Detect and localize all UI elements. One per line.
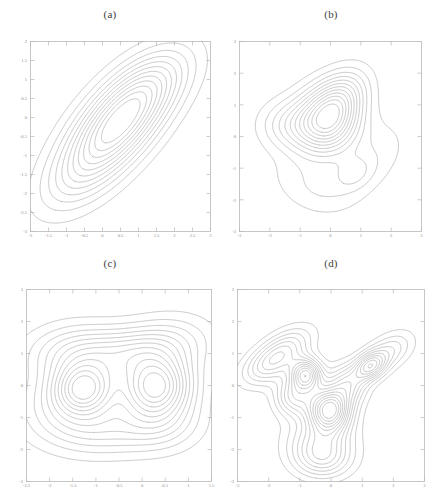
ticklabel: 0.5 bbox=[118, 233, 124, 238]
panel-d-y-labels: 3 2 1 0 -1 -2 -3 bbox=[230, 287, 235, 484]
ticklabel: -1 bbox=[19, 415, 24, 420]
contour-line bbox=[273, 72, 367, 184]
ticklabel: 0 bbox=[101, 233, 104, 238]
contour-figure: (a) bbox=[0, 0, 441, 497]
ticklabel: 2 bbox=[234, 71, 237, 76]
contour-line bbox=[101, 99, 140, 143]
ticklabel: 0 bbox=[141, 483, 144, 488]
ticklabel: 2 bbox=[232, 319, 235, 324]
panel-a-plot: -2 -1.5 -1 -0.5 0 0.5 1 1.5 2 2.5 3 2 1.… bbox=[0, 26, 220, 248]
ticklabel: -1.5 bbox=[20, 172, 28, 177]
ticklabel: -1 bbox=[298, 233, 303, 238]
panel-c-title: (c) bbox=[0, 257, 220, 269]
contour-line bbox=[262, 346, 385, 464]
panel-a-x-labels: -2 -1.5 -1 -0.5 0 0.5 1 1.5 2 2.5 3 bbox=[29, 233, 213, 238]
contour-line bbox=[316, 104, 339, 128]
panel-b: (b) bbox=[221, 0, 441, 248]
panel-c-plot: -2.5 -2 -1.5 -1 -0.5 0 0.5 1 1.5 3 2 1 0… bbox=[0, 275, 220, 497]
ticklabel: -1.5 bbox=[69, 483, 77, 488]
contour-line bbox=[62, 62, 177, 189]
ticklabel: -1 bbox=[65, 233, 70, 238]
ticklabel: 3 bbox=[232, 287, 235, 292]
ticklabel: -2 bbox=[267, 483, 272, 488]
panel-d-title: (d) bbox=[221, 257, 441, 269]
contour-line bbox=[68, 67, 172, 182]
panel-b-plot: -3 -2 -1 0 1 2 3 3 2 1 0 -1 -2 -3 bbox=[221, 26, 441, 248]
contour-line bbox=[27, 311, 212, 335]
contour-line bbox=[248, 333, 401, 474]
panel-c-y-ticks bbox=[27, 290, 212, 482]
ticklabel: 2 bbox=[21, 319, 24, 324]
ticklabel: -2 bbox=[268, 233, 273, 238]
ticklabel: -2.5 bbox=[20, 210, 28, 215]
ticklabel: 1.5 bbox=[21, 58, 27, 63]
contour-line bbox=[238, 322, 416, 481]
contour-line bbox=[368, 364, 373, 368]
ticklabel: 2 bbox=[173, 233, 176, 238]
panel-a-contours bbox=[31, 42, 208, 224]
panel-c-x-ticks bbox=[27, 290, 212, 482]
ticklabel: -1 bbox=[94, 483, 99, 488]
contour-line bbox=[49, 50, 189, 202]
panel-a-title: (a) bbox=[0, 8, 220, 20]
contour-line bbox=[58, 348, 180, 417]
ticklabel: -0.5 bbox=[115, 483, 123, 488]
ticklabel: -3 bbox=[238, 233, 243, 238]
ticklabel: -1 bbox=[230, 415, 235, 420]
contour-line bbox=[305, 375, 306, 377]
ticklabel: -2 bbox=[230, 447, 235, 452]
contour-line bbox=[242, 329, 407, 479]
ticklabel: -2.5 bbox=[23, 483, 31, 488]
contour-line bbox=[253, 338, 395, 472]
ticklabel: 2 bbox=[390, 233, 393, 238]
panel-c: (c) bbox=[0, 249, 220, 497]
panel-d: (d) bbox=[221, 249, 441, 497]
contour-line bbox=[285, 80, 360, 152]
ticklabel: 0.5 bbox=[162, 483, 168, 488]
panel-b-y-ticks bbox=[240, 42, 422, 232]
contour-line bbox=[31, 42, 208, 224]
contour-line bbox=[318, 397, 341, 424]
panel-d-contours bbox=[238, 322, 416, 481]
ticklabel: 1 bbox=[187, 483, 190, 488]
contour-line bbox=[269, 352, 284, 364]
ticklabel: 1 bbox=[25, 77, 28, 82]
ticklabel: -3 bbox=[230, 479, 235, 484]
contour-line bbox=[126, 353, 176, 412]
contour-line bbox=[294, 364, 316, 393]
ticklabel: 3 bbox=[234, 39, 237, 44]
contour-line bbox=[89, 86, 152, 157]
panel-c-x-labels: -2.5 -2 -1.5 -1 -0.5 0 0.5 1 1.5 bbox=[23, 483, 215, 488]
ticklabel: -3 bbox=[232, 229, 237, 234]
panel-c-axes: -2.5 -2 -1.5 -1 -0.5 0 0.5 1 1.5 3 2 1 0… bbox=[19, 287, 215, 488]
ticklabel: -0.5 bbox=[81, 233, 89, 238]
contour-line bbox=[72, 376, 95, 399]
panel-b-contours bbox=[255, 60, 398, 212]
ticklabel: -1.5 bbox=[45, 233, 53, 238]
ticklabel: -2 bbox=[48, 483, 53, 488]
ticklabel: 0 bbox=[234, 134, 237, 139]
panel-c-y-labels: 3 2 1 0 -1 -2 -3 bbox=[19, 287, 24, 484]
ticklabel: 3 bbox=[21, 287, 24, 292]
ticklabel: 0.5 bbox=[21, 96, 27, 101]
ticklabel: -2 bbox=[29, 233, 34, 238]
ticklabel: -1 bbox=[23, 153, 28, 158]
ticklabel: -2 bbox=[19, 447, 24, 452]
ticklabel: -2 bbox=[232, 198, 237, 203]
ticklabel: 2 bbox=[392, 483, 395, 488]
panel-b-x-ticks bbox=[240, 42, 422, 232]
ticklabel: 0 bbox=[25, 115, 28, 120]
panel-b-x-labels: -3 -2 -1 0 1 2 3 bbox=[238, 233, 424, 238]
contour-line bbox=[65, 366, 104, 407]
ticklabel: 2.5 bbox=[190, 233, 196, 238]
contour-line bbox=[322, 402, 336, 418]
ticklabel: 3 bbox=[423, 483, 426, 488]
panel-d-plot: -3 -2 -1 0 1 2 3 3 2 1 0 -1 -2 -3 bbox=[221, 275, 441, 497]
contour-line bbox=[56, 56, 182, 194]
ticklabel: 1 bbox=[21, 351, 24, 356]
ticklabel: 1 bbox=[360, 233, 363, 238]
contour-line bbox=[40, 43, 196, 211]
contour-line bbox=[41, 330, 193, 439]
panel-d-axes: -3 -2 -1 0 1 2 3 3 2 1 0 -1 -2 -3 bbox=[230, 287, 426, 488]
ticklabel: 1 bbox=[137, 233, 140, 238]
